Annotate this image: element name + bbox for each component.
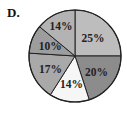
slice-label: 14% [49, 20, 72, 32]
slice-label: 14% [60, 78, 83, 90]
slice-label: 17% [39, 63, 62, 75]
slice-label: 25% [81, 32, 104, 44]
pie-chart: 25%20%14%17%10%14% [0, 0, 127, 114]
slice-label: 20% [85, 66, 108, 78]
